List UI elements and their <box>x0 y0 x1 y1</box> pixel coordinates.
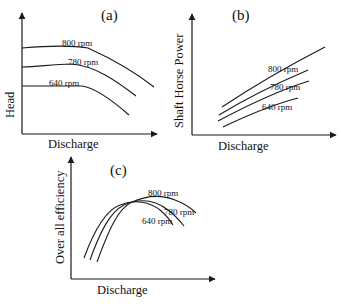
panel-b-shaft-power-vs-discharge: (b) Shaft Horse Power Discharge 800 rpm … <box>172 7 336 153</box>
panel-title: (a) <box>101 7 118 24</box>
curve-640-rpm <box>22 86 129 115</box>
curve-640-rpm <box>84 202 173 258</box>
y-axis-label: Head <box>3 91 17 118</box>
y-axis-label: Shaft Horse Power <box>172 33 186 128</box>
panel-title: (c) <box>110 162 127 179</box>
label-640-rpm: 640 rpm <box>262 102 292 112</box>
label-800-rpm: 800 rpm <box>62 38 92 48</box>
label-640-rpm: 640 rpm <box>142 216 172 226</box>
panel-a-head-vs-discharge: (a) Head Discharge 800 rpm 780 rpm 640 r… <box>3 7 157 151</box>
x-axis-label: Discharge <box>97 283 148 297</box>
x-axis-label: Discharge <box>48 137 99 151</box>
x-axis-label: Discharge <box>218 139 269 153</box>
label-780-rpm: 780 rpm <box>270 82 300 92</box>
label-800-rpm: 800 rpm <box>148 188 178 198</box>
label-780-rpm: 780 rpm <box>68 57 98 67</box>
pump-characteristics-figure: (a) Head Discharge 800 rpm 780 rpm 640 r… <box>0 0 341 304</box>
panel-title: (b) <box>232 7 250 24</box>
curve-800-rpm <box>222 47 325 107</box>
label-640-rpm: 640 rpm <box>49 78 79 88</box>
label-800-rpm: 800 rpm <box>268 64 298 74</box>
y-axis-label: Over all efficiency <box>53 170 67 264</box>
panel-c-efficiency-vs-discharge: (c) Over all efficiency Discharge 800 rp… <box>53 157 215 297</box>
